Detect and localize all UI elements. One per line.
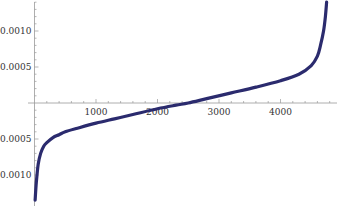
axis-ticks [35,2,330,196]
x-tick-label: 1000 [85,107,108,117]
y-tick-label: −0.0005 [0,134,32,144]
y-tick-label: −0.0010 [0,170,32,180]
y-tick-label: 0.0005 [0,62,32,72]
line-chart: 1000200030004000−0.0010−0.00050.00050.00… [0,0,341,208]
data-series-line [35,2,327,200]
y-tick-label: 0.0010 [0,26,32,36]
x-tick-label: 3000 [208,107,231,117]
x-tick-label: 4000 [269,107,292,117]
